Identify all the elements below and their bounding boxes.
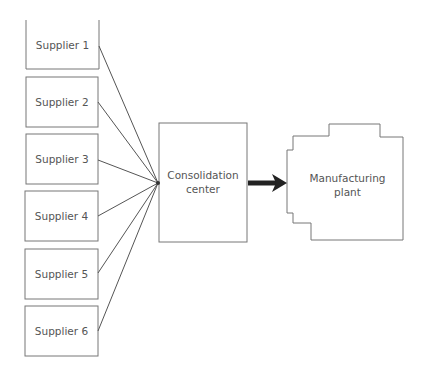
plant-line-2: plant xyxy=(300,185,395,199)
supplier-6-label: Supplier 6 xyxy=(25,324,98,338)
supplier-4-label: Supplier 4 xyxy=(25,209,98,223)
flow-arrow xyxy=(248,174,287,192)
supplier-5-label: Supplier 5 xyxy=(25,267,98,281)
supplier-2-label: Supplier 2 xyxy=(26,95,98,109)
consolidation-line-2: center xyxy=(159,182,247,196)
consolidation-center-label: Consolidation center xyxy=(159,168,247,196)
supplier-connectors xyxy=(98,46,158,331)
supplier-1-label: Supplier 1 xyxy=(26,38,99,52)
plant-line-1: Manufacturing xyxy=(300,171,395,185)
supplier-3-label: Supplier 3 xyxy=(26,152,98,166)
manufacturing-plant-label: Manufacturing plant xyxy=(300,171,395,199)
consolidation-line-1: Consolidation xyxy=(159,168,247,182)
